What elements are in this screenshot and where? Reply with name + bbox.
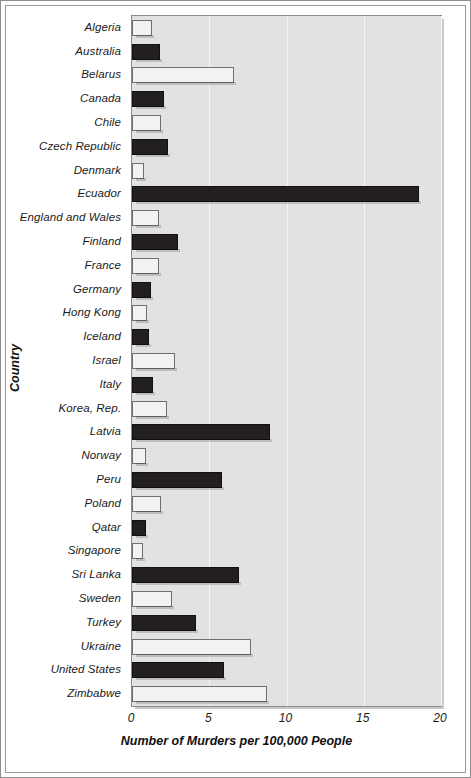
y-tick-label: Ukraine	[81, 640, 121, 652]
bar-row	[132, 471, 441, 489]
bar-singapore	[132, 543, 143, 559]
bar-israel	[132, 353, 175, 369]
y-tick-label: Israel	[92, 354, 121, 366]
y-tick-label: Germany	[73, 283, 121, 295]
x-tick-label: 20	[433, 711, 446, 725]
bar-row	[132, 281, 441, 299]
bar-turkey	[132, 615, 196, 631]
bar-united-states	[132, 662, 224, 678]
bar-row	[132, 328, 441, 346]
y-tick-label: England and Wales	[20, 211, 121, 223]
bar-latvia	[132, 424, 270, 440]
bar-chile	[132, 115, 161, 131]
bar-hong-kong	[132, 305, 147, 321]
y-tick-label: Qatar	[92, 521, 121, 533]
y-tick-label: Algeria	[85, 21, 122, 33]
bar-row	[132, 304, 441, 322]
bar-row	[132, 495, 441, 513]
bar-row	[132, 400, 441, 418]
bar-row	[132, 352, 441, 370]
y-tick-label: Sweden	[79, 592, 121, 604]
bar-row	[132, 209, 441, 227]
y-tick-label: Norway	[81, 449, 121, 461]
bar-peru	[132, 472, 222, 488]
bar-rows	[132, 16, 441, 706]
bar-row	[132, 566, 441, 584]
bar-row	[132, 542, 441, 560]
y-tick-label: Chile	[94, 116, 121, 128]
y-tick-label: Canada	[80, 92, 121, 104]
y-tick-label: Australia	[75, 45, 121, 57]
chart-figure: AlgeriaAustraliaBelarusCanadaChileCzech …	[0, 0, 471, 778]
bar-row	[132, 185, 441, 203]
y-tick-label: United States	[51, 663, 121, 675]
bar-row	[132, 257, 441, 275]
y-tick-label: Belarus	[81, 68, 121, 80]
bar-canada	[132, 91, 164, 107]
y-tick-label: Turkey	[86, 616, 121, 628]
bar-norway	[132, 448, 146, 464]
bar-iceland	[132, 329, 149, 345]
y-tick-label: Italy	[99, 378, 121, 390]
bar-algeria	[132, 20, 152, 36]
bar-row	[132, 638, 441, 656]
bar-australia	[132, 44, 160, 60]
x-tick-label: 15	[356, 711, 369, 725]
bar-row	[132, 162, 441, 180]
bar-finland	[132, 234, 178, 250]
bar-poland	[132, 496, 161, 512]
y-tick-label: Peru	[96, 473, 121, 485]
bar-row	[132, 66, 441, 84]
y-tick-label: Latvia	[90, 425, 121, 437]
bar-row	[132, 685, 441, 703]
bar-row	[132, 43, 441, 61]
y-tick-label: Korea, Rep.	[59, 402, 121, 414]
bar-ecuador	[132, 186, 419, 202]
y-tick-label: Czech Republic	[39, 140, 121, 152]
x-tick-label: 0	[128, 711, 135, 725]
bar-row	[132, 19, 441, 37]
bar-italy	[132, 377, 153, 393]
y-tick-label: Singapore	[68, 544, 121, 556]
bar-row	[132, 519, 441, 537]
x-axis-tick-labels: 05101520	[1, 711, 471, 729]
bar-england-and-wales	[132, 210, 159, 226]
bar-belarus	[132, 67, 234, 83]
bar-sri-lanka	[132, 567, 239, 583]
bar-korea-rep	[132, 401, 167, 417]
y-tick-label: Iceland	[83, 330, 121, 342]
y-tick-label: Denmark	[74, 164, 121, 176]
bar-czech-republic	[132, 139, 168, 155]
bar-row	[132, 590, 441, 608]
y-tick-label: Sri Lanka	[72, 568, 121, 580]
plot-area	[131, 15, 442, 707]
bar-row	[132, 376, 441, 394]
y-tick-label: Finland	[83, 235, 121, 247]
x-tick-label: 10	[279, 711, 292, 725]
y-tick-label: Ecuador	[77, 187, 121, 199]
y-axis-title: Country	[8, 318, 22, 418]
y-tick-label: Poland	[85, 497, 121, 509]
bar-row	[132, 614, 441, 632]
bar-row	[132, 233, 441, 251]
gridline-20	[441, 16, 442, 706]
y-tick-label: Zimbabwe	[67, 687, 121, 699]
x-tick-label: 5	[205, 711, 212, 725]
bar-france	[132, 258, 159, 274]
y-tick-label: Hong Kong	[63, 306, 121, 318]
bar-zimbabwe	[132, 686, 267, 702]
x-axis-title: Number of Murders per 100,000 People	[1, 734, 471, 748]
bar-row	[132, 138, 441, 156]
bar-row	[132, 90, 441, 108]
bar-qatar	[132, 520, 146, 536]
y-tick-label: France	[85, 259, 121, 271]
bar-row	[132, 447, 441, 465]
bar-row	[132, 423, 441, 441]
bar-row	[132, 114, 441, 132]
bar-sweden	[132, 591, 172, 607]
bar-row	[132, 661, 441, 679]
bar-denmark	[132, 163, 144, 179]
bar-germany	[132, 282, 151, 298]
bar-ukraine	[132, 639, 251, 655]
